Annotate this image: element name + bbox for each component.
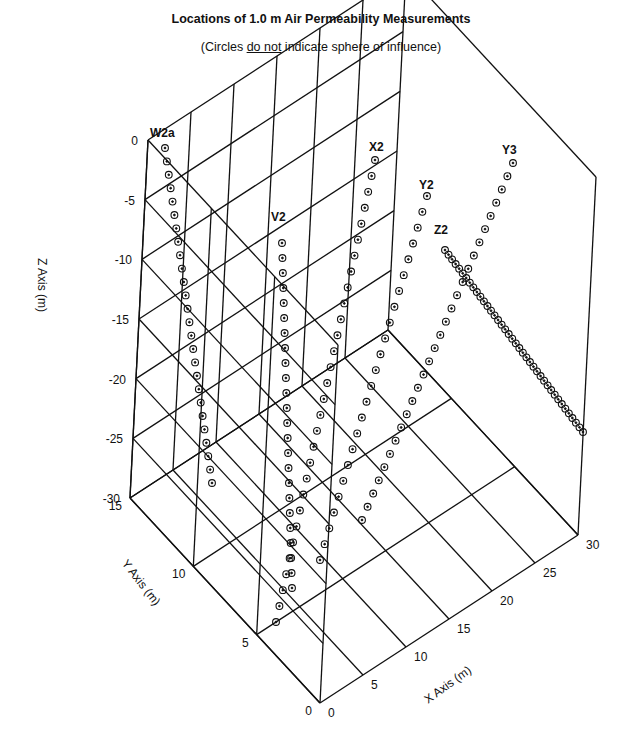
3d-scatter-plot: 0-5-10-15-20-25-30051015051015202530 Z A…	[0, 0, 642, 744]
tick-label: 10	[414, 650, 428, 664]
tick-label: 0	[305, 704, 312, 718]
tick-label: -5	[124, 194, 135, 208]
tick-label: 10	[172, 567, 186, 581]
tick-label: 20	[500, 594, 514, 608]
well-label-y2: Y2	[419, 178, 434, 192]
x-axis-label: X Axis (m)	[421, 663, 473, 706]
tick-labels: 0-5-10-15-20-25-30051015051015202530	[103, 134, 600, 720]
data-points	[162, 145, 587, 626]
tick-label: 15	[109, 499, 123, 513]
tick-label: 5	[242, 636, 249, 650]
y-axis-label: Y Axis (m)	[119, 557, 164, 609]
tick-label: -20	[109, 373, 127, 387]
tick-label: 0	[131, 134, 138, 148]
tick-label: -25	[106, 432, 124, 446]
tick-label: -15	[112, 313, 130, 327]
tick-label: 0	[328, 706, 335, 720]
tick-label: -10	[115, 253, 133, 267]
well-label-v2: V2	[271, 210, 286, 224]
z-axis-label: Z Axis (m)	[35, 258, 49, 312]
well-label-y3: Y3	[502, 143, 517, 157]
tick-label: 5	[371, 678, 378, 692]
well-label-w2a: W2a	[150, 126, 175, 140]
tick-label: 30	[586, 538, 600, 552]
well-label-x2: X2	[369, 140, 384, 154]
tick-label: 15	[457, 622, 471, 636]
well-label-z2: Z2	[434, 223, 448, 237]
tick-label: 25	[543, 566, 557, 580]
